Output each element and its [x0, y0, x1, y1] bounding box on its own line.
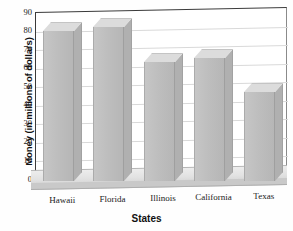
bar-side-face: [175, 53, 183, 181]
bar-side-face: [124, 18, 132, 181]
y-axis-tick-label: 60: [10, 63, 32, 72]
bar-front-face: [144, 62, 175, 181]
y-axis-tick-label: 80: [10, 26, 32, 35]
bar-california: [194, 49, 225, 181]
y-axis-tick-label: 50: [10, 82, 32, 91]
chart-screenshot: Money (in millions of dollars) 010203040…: [0, 0, 293, 231]
bar-texas: [244, 83, 275, 181]
category-label-texas: Texas: [229, 191, 293, 201]
y-axis-tick-label: 20: [10, 137, 32, 146]
bar-front-face: [244, 92, 275, 181]
bar-hawaii: [43, 22, 74, 181]
y-axis-tick-label: 70: [10, 45, 32, 54]
y-axis-tick-label: 0: [10, 175, 32, 184]
bar-front-face: [93, 27, 124, 181]
x-axis-title: States: [0, 213, 293, 224]
bar-side-face: [275, 83, 283, 181]
gridline: [36, 8, 288, 14]
bar-illinois: [144, 53, 175, 181]
y-axis-tick-label: 10: [10, 156, 32, 165]
y-axis-tick-label: 40: [10, 100, 32, 109]
y-axis-tick-label: 90: [10, 8, 32, 17]
bar-florida: [93, 18, 124, 181]
bar-side-face: [74, 22, 82, 181]
bar-side-face: [225, 49, 233, 180]
bar-front-face: [194, 58, 225, 181]
bar-front-face: [43, 31, 74, 181]
y-axis-tick-label: 30: [10, 119, 32, 128]
